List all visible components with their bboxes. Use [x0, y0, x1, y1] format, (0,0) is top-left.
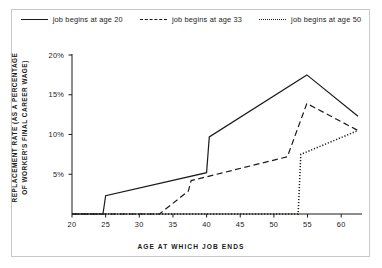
series-line-job-begins-at-age-50: [72, 131, 358, 214]
plot-area: 5%10%15%20%202530354045505560: [0, 0, 382, 268]
x-tick-label: 55: [298, 220, 318, 229]
x-tick-label: 40: [197, 220, 217, 229]
x-tick-label: 50: [264, 220, 284, 229]
y-tick-label: 15%: [36, 90, 64, 99]
x-tick-label: 45: [230, 220, 250, 229]
x-tick-label: 60: [331, 220, 351, 229]
x-tick-label: 20: [62, 220, 82, 229]
series-line-job-begins-at-age-20: [72, 75, 358, 214]
x-tick-label: 25: [96, 220, 116, 229]
y-tick-label: 10%: [36, 130, 64, 139]
x-tick-label: 35: [163, 220, 183, 229]
y-tick-label: 20%: [36, 51, 64, 60]
series-line-job-begins-at-age-33: [72, 103, 358, 214]
x-tick-label: 30: [129, 220, 149, 229]
y-tick-label: 5%: [36, 170, 64, 179]
